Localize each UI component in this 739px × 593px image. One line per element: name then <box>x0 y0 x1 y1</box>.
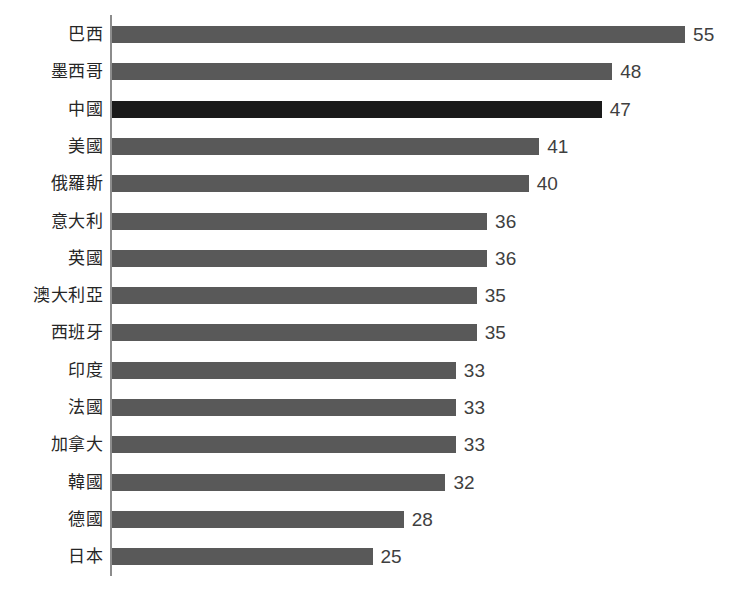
value-label: 35 <box>485 287 506 304</box>
category-label: 法國 <box>68 389 103 426</box>
value-label: 36 <box>495 250 516 267</box>
bar-row: 墨西哥48 <box>0 53 739 90</box>
value-label: 48 <box>620 63 641 80</box>
bar-row: 美國41 <box>0 128 739 165</box>
value-label: 28 <box>412 511 433 528</box>
value-label: 32 <box>453 474 474 491</box>
category-label: 美國 <box>68 128 103 165</box>
category-label: 日本 <box>68 538 103 575</box>
value-label: 47 <box>610 101 631 118</box>
plot-area: 巴西55墨西哥48中國47美國41俄羅斯40意大利36英國36澳大利亞35西班牙… <box>0 0 739 593</box>
category-label: 意大利 <box>51 203 104 240</box>
bar-row: 加拿大33 <box>0 426 739 463</box>
bar[interactable] <box>112 436 456 453</box>
bar[interactable] <box>112 511 404 528</box>
bar-row: 英國36 <box>0 240 739 277</box>
bar[interactable] <box>112 548 373 565</box>
bar-row: 俄羅斯40 <box>0 165 739 202</box>
category-label: 韓國 <box>68 464 103 501</box>
category-label: 德國 <box>68 501 103 538</box>
category-label: 俄羅斯 <box>51 165 104 202</box>
value-label: 36 <box>495 213 516 230</box>
bar[interactable] <box>112 175 529 192</box>
category-label: 澳大利亞 <box>33 277 103 314</box>
bar[interactable] <box>112 324 477 341</box>
bar-row: 日本25 <box>0 538 739 575</box>
bar-highlighted[interactable] <box>112 101 602 118</box>
value-label: 33 <box>464 399 485 416</box>
category-label: 印度 <box>68 352 103 389</box>
bar-row: 澳大利亞35 <box>0 277 739 314</box>
value-label: 25 <box>381 548 402 565</box>
bar[interactable] <box>112 250 487 267</box>
bar-row: 中國47 <box>0 91 739 128</box>
value-label: 55 <box>693 26 714 43</box>
category-label: 巴西 <box>68 16 103 53</box>
value-label: 35 <box>485 324 506 341</box>
bar-chart: 巴西55墨西哥48中國47美國41俄羅斯40意大利36英國36澳大利亞35西班牙… <box>0 0 739 593</box>
bar[interactable] <box>112 138 539 155</box>
category-label: 中國 <box>68 91 103 128</box>
bar-row: 西班牙35 <box>0 314 739 351</box>
bar[interactable] <box>112 287 477 304</box>
value-label: 33 <box>464 362 485 379</box>
value-label: 41 <box>547 138 568 155</box>
bar-row: 法國33 <box>0 389 739 426</box>
bar[interactable] <box>112 399 456 416</box>
bar-row: 巴西55 <box>0 16 739 53</box>
bar[interactable] <box>112 63 612 80</box>
value-label: 40 <box>537 175 558 192</box>
bar[interactable] <box>112 26 685 43</box>
bar-row: 韓國32 <box>0 464 739 501</box>
category-label: 西班牙 <box>51 314 104 351</box>
bar-row: 意大利36 <box>0 203 739 240</box>
value-label: 33 <box>464 436 485 453</box>
bar[interactable] <box>112 362 456 379</box>
bar[interactable] <box>112 213 487 230</box>
bar-row: 德國28 <box>0 501 739 538</box>
category-label: 墨西哥 <box>51 53 104 90</box>
category-label: 加拿大 <box>51 426 104 463</box>
bar-row: 印度33 <box>0 352 739 389</box>
category-label: 英國 <box>68 240 103 277</box>
bar[interactable] <box>112 474 445 491</box>
